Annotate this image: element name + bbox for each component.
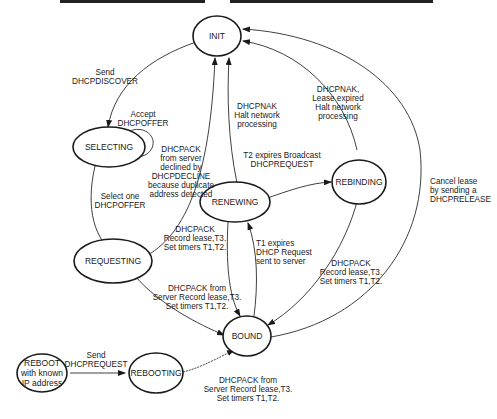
svg-text:Set timers T1,T2.: Set timers T1,T2.: [320, 277, 383, 286]
state-label: IP address: [22, 378, 62, 388]
svg-text:T1 expires: T1 expires: [256, 239, 294, 248]
svg-text:declined by: declined by: [160, 163, 202, 172]
svg-text:Record lease,T3.: Record lease,T3.: [320, 268, 382, 277]
svg-text:sent to server: sent to server: [256, 257, 306, 266]
state-requesting: REQUESTING: [74, 239, 152, 283]
state-label: with known: [20, 368, 63, 378]
edge-rebooting-bound: [183, 350, 234, 372]
svg-text:DHCPOFFER: DHCPOFFER: [95, 201, 146, 210]
svg-text:DHCPREQUEST: DHCPREQUEST: [65, 360, 128, 369]
label-renewing-bound: DHCPACK Record lease,T3. Set timers T1,T…: [164, 225, 227, 252]
state-selecting: SELECTING: [73, 127, 145, 167]
svg-text:DHCPDECLINE: DHCPDECLINE: [152, 172, 211, 181]
label-renewing-init: DHCPNAK Halt network processing: [234, 102, 280, 129]
label-requesting-bound: DHCPACK from Server Record lease,T3. Set…: [153, 284, 242, 311]
svg-text:DHCPOFFER: DHCPOFFER: [118, 119, 169, 128]
svg-text:DHCPACK: DHCPACK: [161, 145, 201, 154]
label-rebinding-bound: DHCPACK Record lease,T3. Set timers T1,T…: [320, 259, 383, 286]
svg-text:Send: Send: [86, 351, 106, 360]
dhcp-state-diagram: INIT SELECTING REQUESTING RENEWING REBIN…: [0, 0, 497, 419]
svg-text:address detected: address detected: [150, 190, 213, 199]
svg-text:processing: processing: [318, 112, 358, 121]
label-rebooting-bound: DHCPACK from Server Record lease,T3. Set…: [204, 376, 293, 403]
svg-text:Cancel lease: Cancel lease: [430, 177, 478, 186]
label-selecting-self: Accept DHCPOFFER: [118, 110, 169, 128]
svg-text:DHCPNAK: DHCPNAK: [237, 102, 278, 111]
state-label: SELECTING: [85, 142, 133, 152]
svg-text:DHCPACK from: DHCPACK from: [168, 284, 226, 293]
svg-text:DHCPACK from: DHCPACK from: [219, 376, 277, 385]
svg-text:Set timers T1,T2.: Set timers T1,T2.: [164, 243, 227, 252]
svg-text:Record lease,T3.: Record lease,T3.: [164, 234, 226, 243]
svg-text:Lease expired: Lease expired: [312, 94, 364, 103]
edge-renewing-init: [228, 58, 237, 183]
svg-text:DHCPACK: DHCPACK: [175, 225, 215, 234]
state-label: REBOOT: [24, 358, 60, 368]
svg-text:processing: processing: [237, 120, 277, 129]
svg-text:DHCPDISCOVER: DHCPDISCOVER: [72, 77, 138, 86]
top-rule: [230, 0, 433, 3]
svg-text:DHCPNAK,: DHCPNAK,: [317, 85, 359, 94]
label-init-selecting: Send DHCPDISCOVER: [72, 68, 138, 86]
svg-text:Set timers T1,T2.: Set timers T1,T2.: [217, 394, 280, 403]
svg-text:Server Record lease,T3.: Server Record lease,T3.: [204, 385, 293, 394]
state-bound: BOUND: [223, 316, 271, 356]
label-bound-init: Cancel lease by sending a DHCPRELEASE: [430, 177, 492, 204]
svg-text:DHCPRELEASE: DHCPRELEASE: [430, 195, 492, 204]
label-rebinding-init: DHCPNAK, Lease expired Halt network proc…: [312, 85, 364, 121]
state-rebooting: REBOOTING: [129, 353, 183, 393]
state-label: REQUESTING: [85, 256, 141, 266]
edge-bound-renewing: [248, 223, 256, 316]
svg-text:Send: Send: [95, 68, 115, 77]
svg-text:DHCPACK: DHCPACK: [331, 259, 371, 268]
svg-text:by sending a: by sending a: [430, 186, 477, 195]
svg-text:Set timers T1,T2.: Set timers T1,T2.: [166, 302, 229, 311]
svg-text:Server Record lease,T3.: Server Record lease,T3.: [153, 293, 242, 302]
state-label: INIT: [209, 31, 225, 41]
state-rebinding: REBINDING: [332, 160, 386, 204]
svg-text:Select one: Select one: [101, 192, 140, 201]
top-rule: [60, 0, 205, 3]
svg-text:Halt network: Halt network: [234, 111, 280, 120]
state-init: INIT: [193, 16, 241, 56]
label-reboot-rebooting: Send DHCPREQUEST: [65, 351, 128, 369]
svg-text:because duplicate: because duplicate: [148, 181, 214, 190]
svg-text:DHCPREQUEST: DHCPREQUEST: [251, 160, 314, 169]
state-reboot: REBOOT with known IP address: [17, 354, 67, 392]
svg-text:from server: from server: [160, 154, 202, 163]
edge-renewing-rebinding: [262, 182, 331, 200]
label-selecting-requesting: Select one DHCPOFFER: [95, 192, 146, 210]
label-bound-renewing: T1 expires DHCP Request sent to server: [256, 239, 313, 266]
svg-text:Halt network: Halt network: [315, 103, 361, 112]
state-label: REBOOTING: [130, 368, 181, 378]
svg-text:T2 expires Broadcast: T2 expires Broadcast: [243, 151, 321, 160]
state-label: REBINDING: [335, 177, 382, 187]
svg-text:Accept: Accept: [130, 110, 156, 119]
state-label: BOUND: [232, 331, 263, 341]
svg-text:DHCP Request: DHCP Request: [256, 248, 313, 257]
state-label: RENEWING: [212, 197, 259, 207]
label-renewing-rebinding: T2 expires Broadcast DHCPREQUEST: [243, 151, 321, 169]
